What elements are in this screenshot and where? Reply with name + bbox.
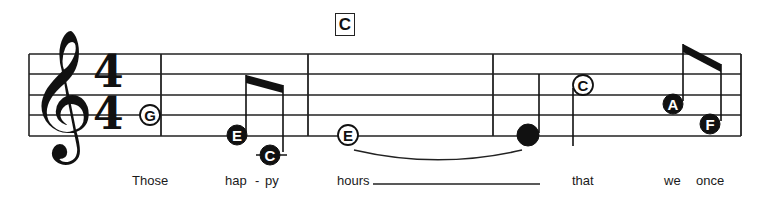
chord-symbol: C [335,13,355,36]
beam [246,75,283,93]
lyric-syllable: - [255,173,259,188]
treble-clef-icon: 𝄞 [28,28,94,158]
note-letter: E [232,127,242,144]
time-signature-top: 4 [93,52,124,92]
note-letter: C [265,147,276,164]
note-letter: A [668,96,679,113]
lyric-syllable: that [572,173,594,188]
beam [683,44,721,72]
tie-curve [354,150,522,160]
lyric-syllable: we [664,173,681,188]
note-letter: E [343,127,353,144]
lyric-syllable: hours [337,173,370,188]
note-letter: G [144,107,156,124]
lyric-syllable: py [265,173,279,188]
note-letter: F [705,116,714,133]
time-signature-bottom: 4 [93,94,124,134]
note-letter: C [578,77,589,94]
lyric-syllable: once [696,173,724,188]
lyric-syllable: hap [225,173,247,188]
lyric-syllable: Those [132,173,168,188]
notehead-blank [517,124,539,146]
